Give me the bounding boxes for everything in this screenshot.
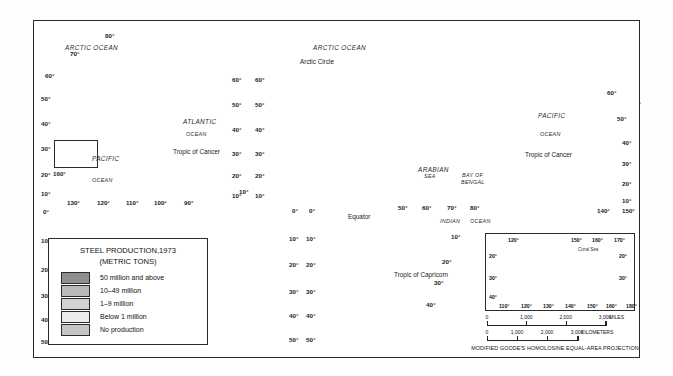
inset-graticule-label: 20° <box>489 253 497 259</box>
sea-label: OCEAN <box>186 131 207 137</box>
legend-box: STEEL PRODUCTION,1973 (METRIC TONS) 50 m… <box>48 238 208 345</box>
graticule-label: 30° <box>255 150 264 157</box>
graticule-label: 150° <box>622 207 635 214</box>
graticule-label: 10° <box>306 235 315 242</box>
graticule-label: 40° <box>622 139 631 146</box>
reference-line-label: Equator <box>348 213 370 220</box>
legend-label: Below 1 million <box>100 313 147 320</box>
graticule-label: 80° <box>105 32 114 39</box>
inset-graticule-label: 150° <box>587 303 598 309</box>
legend-row: 50 million and above <box>61 271 164 284</box>
reference-line-label: Tropic of Cancer <box>525 151 572 158</box>
graticule-label: 50° <box>617 115 626 122</box>
graticule-label: 20° <box>232 172 241 179</box>
legend-row: Below 1 million <box>61 310 164 323</box>
graticule-label: 20° <box>255 172 264 179</box>
graticule-label: 10° <box>41 190 50 197</box>
graticule-label: 30° <box>232 150 241 157</box>
graticule-label: 60° <box>255 76 264 83</box>
scale-tick-label: 2,000 <box>541 329 554 335</box>
inset-graticule-label: 130° <box>543 303 554 309</box>
ocean-label: ARCTIC OCEAN <box>313 44 366 51</box>
graticule-label: 60° <box>607 89 616 96</box>
graticule-label: 60° <box>45 72 54 79</box>
legend-row: No production <box>61 323 164 336</box>
scale-tick-label: 0 <box>486 329 489 335</box>
scale-tick <box>577 336 578 341</box>
inset-graticule-label: 160° <box>592 237 603 243</box>
graticule-label: 20° <box>41 171 50 178</box>
scale-bar-kilometers <box>487 336 579 341</box>
graticule-label: 30° <box>41 145 50 152</box>
graticule-label: 50° <box>232 101 241 108</box>
graticule-label: 50° <box>289 336 298 343</box>
legend-swatch <box>61 298 90 310</box>
graticule-label: 10° <box>622 197 631 204</box>
legend-label: 10–49 million <box>100 287 141 294</box>
scale-tick <box>566 321 567 326</box>
ocean-label: ATLANTIC <box>183 118 217 125</box>
inset-graticule-label: 40° <box>489 294 497 300</box>
graticule-label: 100° <box>154 199 167 206</box>
graticule-label: 40° <box>289 312 298 319</box>
scale-bars: 01,0002,0003,000MILES 01,0002,0003,000KI… <box>487 316 637 344</box>
legend-swatch <box>61 272 90 284</box>
scale-tick <box>487 336 488 341</box>
scale-tick <box>526 321 527 326</box>
graticule-label: 30° <box>306 288 315 295</box>
graticule-label: 60° <box>422 204 431 211</box>
graticule-label: 50° <box>398 204 407 211</box>
graticule-label: 80° <box>470 204 479 211</box>
graticule-label: 40° <box>232 126 241 133</box>
graticule-label: 10° <box>239 188 248 195</box>
legend-label: No production <box>100 326 144 333</box>
graticule-label: 160° <box>53 170 66 177</box>
graticule-label: 20° <box>289 261 298 268</box>
inset-graticule-label: 170° <box>614 237 625 243</box>
graticule-label: 40° <box>306 312 315 319</box>
scale-unit-label: KILOMETERS <box>581 329 613 335</box>
legend-class-list: 50 million and above10–49 million1–9 mil… <box>61 271 164 336</box>
graticule-label: 90° <box>184 199 193 206</box>
graticule-label: 50° <box>41 95 50 102</box>
graticule-label: 10° <box>255 192 264 199</box>
graticule-label: 60° <box>232 76 241 83</box>
ocean-label: PACIFIC <box>92 155 120 162</box>
map-figure: ARCTIC OCEANATLANTICPACIFICARCTIC OCEANP… <box>0 0 673 376</box>
scale-miles: 01,0002,0003,000MILES <box>487 316 637 329</box>
coral-sea-label: Coral Sea <box>578 247 598 252</box>
graticule-label: 50° <box>306 336 315 343</box>
sea-label: BENGAL <box>461 179 485 185</box>
scale-kilometers: 01,0002,0003,000KILOMETERS <box>487 331 637 344</box>
scale-tick <box>517 336 518 341</box>
graticule-label: 0° <box>309 207 315 214</box>
graticule-label: 120° <box>97 199 110 206</box>
inset-graticule-label: 140° <box>565 303 576 309</box>
inset-graticule-label: 160° <box>606 303 617 309</box>
legend-swatch <box>61 285 90 297</box>
graticule-label: 130° <box>67 199 80 206</box>
inset-graticule-label: 20° <box>619 253 627 259</box>
hawaii-inset-box <box>54 140 98 168</box>
scale-tick <box>605 321 606 326</box>
graticule-label: 20° <box>306 261 315 268</box>
graticule-label: 0° <box>292 207 298 214</box>
inset-graticule-label: 30° <box>489 275 497 281</box>
ocean-label: ARABIAN <box>418 166 449 173</box>
graticule-label: 20° <box>442 258 451 265</box>
graticule-label: 30° <box>622 160 631 167</box>
graticule-label: 30° <box>434 279 443 286</box>
legend-label: 1–9 million <box>100 300 133 307</box>
ocean-label: PACIFIC <box>538 112 566 119</box>
graticule-label: 40° <box>255 126 264 133</box>
sea-label: SEA <box>424 173 436 179</box>
scale-tick <box>547 336 548 341</box>
sea-label: OCEAN <box>470 218 491 224</box>
graticule-label: 10° <box>289 235 298 242</box>
inset-graticule-label: 120° <box>521 303 532 309</box>
inset-graticule-label: 180° <box>626 303 637 309</box>
graticule-label: 0° <box>43 208 49 215</box>
sea-label: INDIAN <box>440 218 460 224</box>
legend-swatch <box>61 324 90 336</box>
sea-label: OCEAN <box>92 177 113 183</box>
